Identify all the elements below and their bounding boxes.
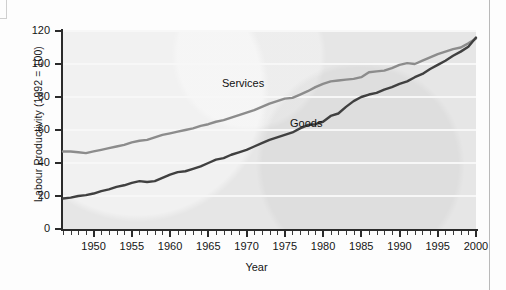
x-axis-tick-label: 2000 (456, 240, 496, 252)
x-axis-tick-minor (63, 231, 64, 235)
x-axis-tick-minor (101, 231, 102, 235)
x-axis-tick-minor (384, 231, 385, 235)
x-axis-tick-label: 1965 (188, 240, 228, 252)
x-axis-tick-major (360, 231, 362, 237)
x-axis-tick-minor (262, 231, 263, 235)
x-axis-tick-minor (369, 231, 370, 235)
y-axis-tick (55, 63, 62, 65)
y-axis-tick (55, 162, 62, 164)
x-axis-tick-minor (300, 231, 301, 235)
y-axis-tick (55, 30, 62, 32)
x-axis-title: Year (0, 261, 489, 273)
x-axis-tick-label: 1985 (341, 240, 381, 252)
x-axis-tick-minor (354, 231, 355, 235)
x-axis-tick-minor (193, 231, 194, 235)
x-axis-tick-minor (155, 231, 156, 235)
y-axis-tick (55, 96, 62, 98)
x-axis-tick-minor (216, 231, 217, 235)
x-axis-tick-minor (277, 231, 278, 235)
x-axis-tick-major (399, 231, 401, 237)
series-line-goods (63, 38, 476, 199)
x-axis-tick-minor (178, 231, 179, 235)
x-axis-tick-label: 1995 (418, 240, 458, 252)
x-axis-tick-major (93, 231, 95, 237)
y-axis-tick-label: 80 (16, 90, 50, 102)
x-axis-tick-minor (117, 231, 118, 235)
x-axis-tick-minor (162, 231, 163, 235)
line-chart-figure: Labour Productivity (1992 = 100) 0204060… (0, 0, 489, 290)
y-axis-tick (55, 228, 62, 230)
x-axis-tick-minor (461, 231, 462, 235)
x-axis-tick-minor (377, 231, 378, 235)
y-axis-tick-label: 0 (16, 222, 50, 234)
x-axis-tick-minor (139, 231, 140, 235)
y-axis-tick (55, 195, 62, 197)
x-axis-tick-minor (231, 231, 232, 235)
x-axis-tick-major (284, 231, 286, 237)
x-axis-tick-minor (292, 231, 293, 235)
x-axis-tick-minor (224, 231, 225, 235)
y-axis-tick-label: 60 (16, 123, 50, 135)
x-axis-tick-minor (86, 231, 87, 235)
y-axis-tick-label: 100 (16, 57, 50, 69)
x-axis-tick-label: 1980 (303, 240, 343, 252)
x-axis-tick-label: 1960 (150, 240, 190, 252)
x-axis-tick-minor (392, 231, 393, 235)
x-axis-tick-major (246, 231, 248, 237)
x-axis-title-text: Year (245, 261, 267, 273)
x-axis-tick-minor (270, 231, 271, 235)
series-label-goods: Goods (290, 117, 322, 129)
x-axis-tick-label: 1955 (112, 240, 152, 252)
x-axis-tick-minor (109, 231, 110, 235)
x-axis-tick-label: 1950 (74, 240, 114, 252)
series-line-services (63, 38, 476, 153)
x-axis-tick-major (322, 231, 324, 237)
y-axis-tick-label: 120 (16, 24, 50, 36)
x-axis-tick-major (437, 231, 439, 237)
x-axis-tick-minor (338, 231, 339, 235)
x-axis-tick-minor (468, 231, 469, 235)
x-axis-tick-label: 1970 (227, 240, 267, 252)
series-label-services: Services (222, 77, 264, 89)
x-axis-tick-minor (430, 231, 431, 235)
x-axis-tick-minor (124, 231, 125, 235)
series-lines (63, 31, 476, 229)
x-axis-tick-minor (415, 231, 416, 235)
x-axis-tick-minor (315, 231, 316, 235)
x-axis-tick-minor (201, 231, 202, 235)
x-axis-tick-minor (331, 231, 332, 235)
y-axis-tick (55, 129, 62, 131)
x-axis-tick-major (169, 231, 171, 237)
x-axis-tick-label: 1975 (265, 240, 305, 252)
x-axis-tick-minor (185, 231, 186, 235)
y-axis-tick-label: 20 (16, 189, 50, 201)
y-axis-tick-label: 40 (16, 156, 50, 168)
x-axis-tick-minor (71, 231, 72, 235)
x-axis-tick-minor (407, 231, 408, 235)
x-axis-tick-minor (239, 231, 240, 235)
x-axis-tick-minor (254, 231, 255, 235)
x-axis-tick-minor (78, 231, 79, 235)
x-axis-tick-major (475, 231, 477, 237)
x-axis-tick-minor (422, 231, 423, 235)
x-axis-tick-label: 1990 (380, 240, 420, 252)
x-axis-tick-major (131, 231, 133, 237)
x-axis-tick-minor (308, 231, 309, 235)
x-axis-tick-minor (346, 231, 347, 235)
x-axis-tick-major (207, 231, 209, 237)
x-axis-tick-minor (453, 231, 454, 235)
x-axis-tick-minor (445, 231, 446, 235)
x-axis-tick-minor (147, 231, 148, 235)
